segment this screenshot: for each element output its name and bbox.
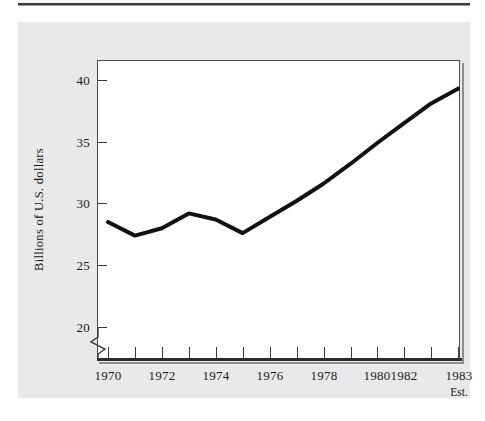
x-tick-label: 1978 [294, 368, 354, 384]
x-tick-label: 1970 [78, 368, 138, 384]
y-tick-label: 35 [18, 135, 90, 151]
x-tick-label: 1972 [132, 368, 192, 384]
plot-frame-shadow-right [462, 63, 464, 363]
y-tick-label: 25 [18, 258, 90, 274]
x-tick-label: 1982 [374, 368, 434, 384]
y-tick-label-wrap: 40 [18, 73, 90, 87]
plot-frame-shadow-bottom [99, 362, 464, 364]
y-tick-label: 40 [18, 73, 90, 89]
top-rule-shadow [18, 5, 470, 6]
y-tick-label: 30 [18, 196, 90, 212]
estimate-annotation: Est. [429, 386, 485, 398]
y-tick-label-wrap: 30 [18, 196, 90, 210]
y-tick-label-wrap: 35 [18, 135, 90, 149]
data-series-line [97, 60, 460, 360]
x-tick-label: 1974 [186, 368, 246, 384]
chart-figure: Billions of U.S. dollars 40 35 30 25 20 [0, 0, 485, 421]
y-tick-label-wrap: 20 [18, 320, 90, 334]
x-tick-label: 1983 [429, 368, 485, 384]
y-tick-label-wrap: 25 [18, 258, 90, 272]
x-tick-label: 1976 [240, 368, 300, 384]
y-tick-label: 20 [18, 320, 90, 336]
figure-panel: Billions of U.S. dollars 40 35 30 25 20 [18, 22, 470, 398]
